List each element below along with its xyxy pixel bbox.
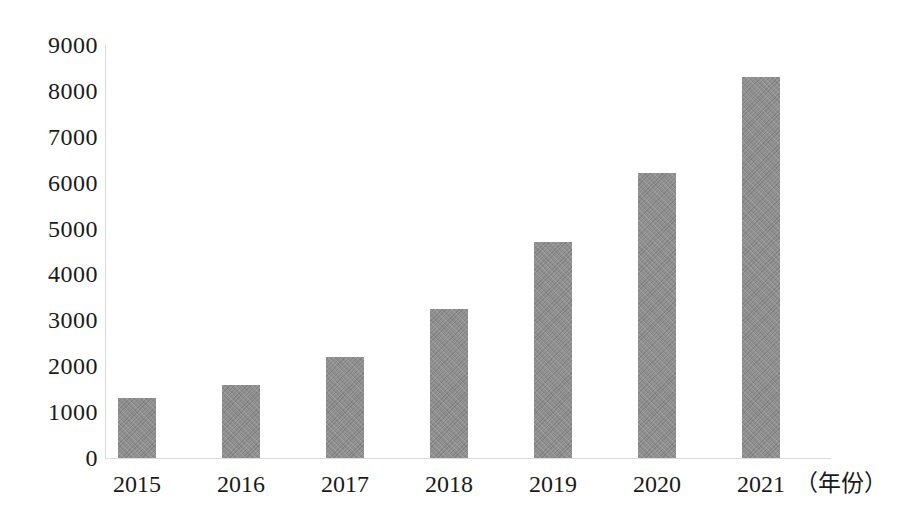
y-axis-tick-label: 5000 xyxy=(24,217,98,241)
y-axis-tick-label: 9000 xyxy=(24,33,98,57)
y-axis-tick-label: 6000 xyxy=(24,171,98,195)
bar-2017 xyxy=(326,357,364,458)
y-axis-line xyxy=(105,45,106,458)
x-axis-tick-label: 2019 xyxy=(503,470,603,498)
x-axis-tick-label: 2015 xyxy=(87,470,187,498)
x-axis-unit-label: （年份） xyxy=(795,470,887,498)
bar-2015 xyxy=(118,398,156,458)
y-axis-tick-label: 7000 xyxy=(24,125,98,149)
bar-2018 xyxy=(430,309,468,458)
bar-chart: 0100020003000400050006000700080009000 20… xyxy=(0,0,907,525)
x-axis-tick-label: 2018 xyxy=(399,470,499,498)
x-axis-tick-label: 2016 xyxy=(191,470,291,498)
y-axis-tick-label: 4000 xyxy=(24,262,98,286)
x-axis-tick-label: 2017 xyxy=(295,470,395,498)
x-axis-tick-label: 2020 xyxy=(607,470,707,498)
bar-2020 xyxy=(638,173,676,458)
bar-2019 xyxy=(534,242,572,458)
y-axis-tick-label: 3000 xyxy=(24,308,98,332)
y-axis-tick-label: 2000 xyxy=(24,354,98,378)
y-axis-tick-label: 0 xyxy=(24,446,98,470)
plot-area: 0100020003000400050006000700080009000 20… xyxy=(0,0,907,525)
x-axis-line xyxy=(105,458,831,459)
bar-2016 xyxy=(222,385,260,458)
y-axis-tick-label: 1000 xyxy=(24,400,98,424)
y-axis-tick-label: 8000 xyxy=(24,79,98,103)
bar-2021 xyxy=(742,77,780,458)
